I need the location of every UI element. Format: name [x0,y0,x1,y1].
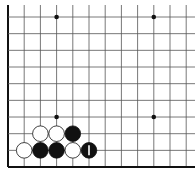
white-stone [65,143,81,159]
white-stone [33,126,49,142]
white-stone [16,143,32,159]
star-point [54,15,59,20]
star-point [152,115,157,120]
black-stone [33,143,49,159]
white-stone [49,126,65,142]
star-point [54,115,59,120]
black-stone [49,143,65,159]
black-stone [65,126,81,142]
go-board [0,0,195,176]
star-point [152,15,157,20]
